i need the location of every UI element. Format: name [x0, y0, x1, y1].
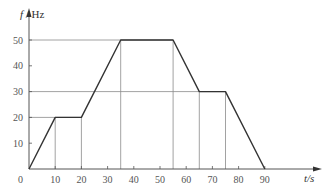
x-tick-label: 80 [234, 174, 244, 185]
x-tick-label: 70 [207, 174, 217, 185]
origin-label: 0 [18, 174, 23, 185]
guide-lines [29, 40, 226, 169]
x-axis-arrow-icon [313, 167, 322, 172]
x-tick-label: 10 [50, 174, 60, 185]
frequency-line [29, 40, 265, 169]
y-tick-label: 10 [13, 138, 23, 149]
y-tick-label: 30 [13, 86, 23, 97]
frequency-time-chart: 1020304050607080901020304050 f / Hz t/s … [0, 0, 324, 192]
x-axis-label: t/s [304, 172, 314, 184]
tick-marks: 1020304050607080901020304050 [13, 35, 270, 186]
y-tick-label: 50 [13, 35, 23, 46]
x-tick-label: 50 [155, 174, 165, 185]
x-tick-label: 20 [76, 174, 86, 185]
axes [27, 8, 323, 172]
y-tick-label: 20 [13, 112, 23, 123]
data-series [29, 40, 265, 169]
y-tick-label: 40 [13, 60, 23, 71]
x-tick-label: 60 [181, 174, 191, 185]
x-tick-label: 40 [129, 174, 139, 185]
x-tick-label: 90 [260, 174, 270, 185]
x-tick-label: 30 [103, 174, 113, 185]
y-axis-label: f / Hz [20, 8, 45, 20]
